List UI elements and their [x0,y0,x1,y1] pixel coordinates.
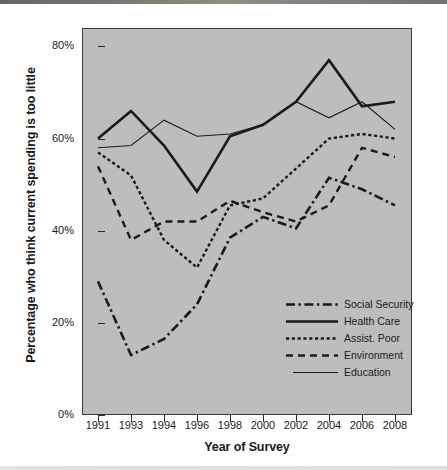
legend-key-swatch [286,313,338,330]
legend-key-swatch [286,330,338,347]
legend-label: Education [344,364,391,381]
x-tick-mark [98,415,99,422]
x-tick-mark [230,415,231,422]
legend-line-sample [286,364,338,381]
chart-figure: Percentage who think current spending is… [0,0,447,470]
legend-label: Social Security [344,296,413,313]
chart-legend: Social SecurityHealth CareAssist. PoorEn… [286,296,436,381]
x-tick-mark [362,415,363,422]
x-axis-title: Year of Survey [82,440,412,454]
y-tick-label: 80% [30,40,74,51]
x-tick-mark [329,415,330,422]
y-tick-label: 0% [30,409,74,420]
legend-line-sample [286,330,338,347]
legend-key-swatch [286,296,338,313]
legend-key-swatch [286,364,338,381]
legend-item: Environment [286,347,436,364]
x-tick-mark [395,415,396,422]
y-tick-label: 40% [30,225,74,236]
x-tick-mark [263,415,264,422]
legend-item: Education [286,364,436,381]
y-tick-mark [98,139,105,140]
legend-key-swatch [286,347,338,364]
x-tick-mark [164,415,165,422]
series-line-health-care [98,60,395,191]
legend-item: Health Care [286,313,436,330]
y-tick-mark [98,415,105,416]
y-tick-mark [98,323,105,324]
legend-label: Health Care [344,313,400,330]
y-axis-ticks: 80%60%40%20%0% [24,0,74,470]
legend-line-sample [286,313,338,330]
y-tick-mark [98,231,105,232]
legend-item: Assist. Poor [286,330,436,347]
x-tick-mark [296,415,297,422]
legend-label: Assist. Poor [344,330,400,347]
x-tick-mark [131,415,132,422]
legend-line-sample [286,347,338,364]
y-tick-label: 20% [30,317,74,328]
x-tick-mark [197,415,198,422]
scan-artifact-bottom [0,466,447,470]
series-line-assist-poor [98,134,395,268]
legend-label: Environment [344,347,403,364]
y-tick-mark [98,46,105,47]
y-tick-label: 60% [30,133,74,144]
legend-item: Social Security [286,296,436,313]
legend-line-sample [286,296,338,313]
